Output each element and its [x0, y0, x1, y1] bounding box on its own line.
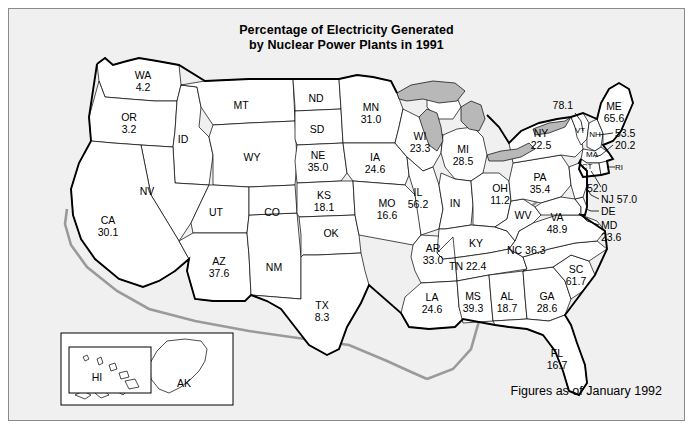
value-ME: 65.6	[604, 112, 625, 124]
label-SC: SC	[569, 263, 584, 275]
value-MO: 16.6	[377, 209, 398, 221]
map-svg: WA 4.2 OR 3.2 ID MT WY NV UT CA 30.1 AZ …	[9, 9, 686, 422]
value-GA: 28.6	[537, 302, 558, 314]
label-WV: WV	[515, 209, 532, 221]
label-VA: VA	[550, 211, 563, 223]
value-MA: 20.2	[615, 139, 636, 151]
value-OR: 3.2	[122, 123, 137, 135]
label-AL: AL	[501, 290, 514, 302]
value-CA: 30.1	[98, 226, 119, 238]
label-MN: MN	[363, 101, 379, 113]
value-VT: 78.1	[553, 99, 574, 111]
label-NC: NC 36.3	[507, 244, 546, 256]
lake-huron	[461, 101, 485, 131]
value-TX: 8.3	[315, 311, 330, 323]
label-MD: MD	[601, 219, 618, 231]
label-TX: TX	[315, 299, 328, 311]
value-NE: 35.0	[308, 161, 329, 173]
value-PA: 35.4	[530, 183, 551, 195]
label-NH: NH	[589, 130, 601, 139]
value-WI: 23.3	[410, 142, 431, 154]
label-KS: KS	[317, 189, 331, 201]
label-CT: CT	[582, 162, 593, 171]
state-NM[interactable]	[247, 213, 301, 299]
label-MT: MT	[233, 99, 249, 111]
value-MS: 39.3	[463, 302, 484, 314]
value-WA: 4.2	[136, 81, 151, 93]
value-AZ: 37.6	[209, 267, 230, 279]
value-NH: 53.5	[615, 127, 636, 139]
value-CT: 52.0	[587, 182, 608, 194]
label-ME: ME	[606, 100, 622, 112]
value-AR: 33.0	[423, 254, 444, 266]
label-CO: CO	[264, 206, 280, 218]
label-DE: DE	[601, 205, 616, 217]
label-IA: IA	[370, 151, 380, 163]
value-MI: 28.5	[453, 155, 474, 167]
value-IL: 56.2	[408, 198, 429, 210]
footnote-text: Figures as of January 1992	[511, 384, 662, 398]
label-OR: OR	[121, 111, 137, 123]
us-choropleth-map: WA 4.2 OR 3.2 ID MT WY NV UT CA 30.1 AZ …	[9, 9, 686, 422]
label-NJ: NJ 57.0	[601, 193, 637, 205]
label-MS: MS	[465, 290, 481, 302]
value-LA: 24.6	[422, 303, 443, 315]
label-NE: NE	[311, 149, 326, 161]
label-LA: LA	[426, 291, 439, 303]
value-SC: 61.7	[566, 275, 587, 287]
label-NV: NV	[140, 185, 155, 197]
label-TN: TN 22.4	[449, 260, 487, 272]
label-KY: KY	[469, 237, 483, 249]
label-VT: VT	[575, 126, 585, 135]
label-UT: UT	[209, 206, 224, 218]
value-FL: 16.7	[547, 359, 568, 371]
label-AZ: AZ	[212, 255, 226, 267]
label-OH: OH	[492, 182, 508, 194]
label-NY: NY	[534, 127, 549, 139]
label-WA: WA	[135, 69, 152, 81]
label-MA: MA	[586, 150, 599, 159]
value-MD: 23.6	[601, 231, 622, 243]
label-HI: HI	[92, 371, 103, 383]
label-IL: IL	[414, 186, 423, 198]
label-AK: AK	[177, 377, 191, 389]
label-MO: MO	[379, 197, 396, 209]
label-CA: CA	[101, 214, 116, 226]
label-NM: NM	[266, 261, 282, 273]
inset-alaska-hawaii: AK HI	[61, 333, 233, 405]
label-MI: MI	[457, 143, 469, 155]
value-VA: 48.9	[547, 223, 568, 235]
label-WY: WY	[244, 151, 261, 163]
label-PA: PA	[533, 171, 546, 183]
label-ID: ID	[178, 133, 189, 145]
label-IN: IN	[450, 197, 461, 209]
value-AL: 18.7	[497, 302, 518, 314]
label-AR: AR	[426, 242, 441, 254]
label-OK: OK	[323, 227, 338, 239]
label-FL: FL	[551, 347, 563, 359]
label-RI: RI	[615, 163, 623, 172]
value-NY: 22.5	[531, 139, 552, 151]
value-MN: 31.0	[361, 113, 382, 125]
leader-DE	[586, 209, 599, 211]
map-figure-frame: Percentage of Electricity Generated by N…	[8, 8, 685, 421]
label-GA: GA	[539, 290, 554, 302]
value-KS: 18.1	[314, 201, 335, 213]
value-OH: 11.2	[490, 194, 510, 206]
label-WI: WI	[414, 130, 427, 142]
label-ND: ND	[308, 92, 324, 104]
lake-superior	[397, 81, 465, 103]
value-IA: 24.6	[365, 163, 386, 175]
label-SD: SD	[310, 123, 325, 135]
